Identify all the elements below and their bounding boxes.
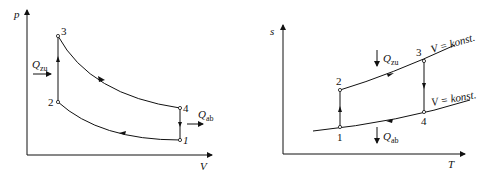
point-2-label: 2 [336, 75, 342, 87]
isochore-upper-label: V = konst. [429, 31, 476, 55]
arrow-down-icon [178, 122, 182, 127]
arrow-right-icon [98, 76, 105, 82]
otto-cycle-figure: p V 3 2 4 1 Q zu Q ab s T [0, 0, 488, 178]
q-ab-subscript: ab [391, 136, 399, 145]
q-zu-subscript: zu [40, 64, 48, 73]
point-4 [422, 110, 425, 113]
point-3-label: 3 [61, 25, 67, 37]
st-diagram: s T 2 1 3 4 V = konst. V = konst. Q zu Q… [270, 25, 477, 170]
point-1-label: 1 [183, 134, 189, 146]
t-axis-label: T [448, 158, 455, 170]
point-2-label: 2 [48, 96, 54, 108]
s-axis-label: s [270, 25, 274, 37]
q-zu-symbol: Q [383, 52, 391, 64]
q-ab-symbol: Q [198, 108, 206, 120]
point-4-label: 4 [421, 115, 427, 127]
point-1 [178, 138, 181, 141]
point-1-label: 1 [337, 131, 343, 143]
q-ab-symbol: Q [383, 130, 391, 142]
pv-diagram: p V 3 2 4 1 Q zu Q ab [13, 8, 214, 172]
arrow-up-icon [56, 56, 60, 62]
point-3 [422, 59, 425, 62]
point-2 [338, 88, 341, 91]
point-2 [56, 100, 59, 103]
arrow-down-icon [422, 83, 426, 89]
process-1-2 [58, 102, 180, 140]
point-3 [56, 34, 59, 37]
v-axis-label: V [200, 160, 208, 172]
point-3-label: 3 [416, 46, 422, 58]
p-axis-label: p [13, 8, 20, 20]
q-ab-subscript: ab [206, 114, 214, 123]
q-zu-symbol: Q [32, 58, 40, 70]
arrow-up-icon [338, 106, 342, 112]
q-zu-subscript: zu [391, 58, 399, 67]
point-1 [338, 125, 341, 128]
point-4-label: 4 [183, 102, 189, 114]
point-4 [178, 106, 181, 109]
process-3-4 [58, 36, 180, 108]
